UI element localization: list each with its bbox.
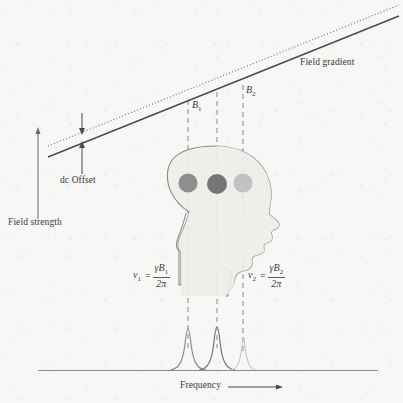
dc-offset-label: dc Offset <box>60 176 96 186</box>
b2-label-subscript: 2 <box>252 90 256 98</box>
voxel-3-dot <box>234 174 253 193</box>
equation-nu1: ν1 = γB1 2π <box>133 262 170 289</box>
nu2-numerator-subscript: 2 <box>280 268 284 276</box>
mri-field-gradient-figure: Field gradient dc Offset Field strength … <box>0 0 403 403</box>
nu1-lhs: ν1 <box>133 269 141 283</box>
nu1-numerator-base: γB <box>155 262 165 273</box>
nu2-subscript: 2 <box>252 275 256 283</box>
nu1-equals-sign: = <box>145 270 151 281</box>
frequency-label: Frequency <box>180 381 221 391</box>
frequency-arrowhead <box>276 385 283 390</box>
field-gradient-label: Field gradient <box>300 58 354 68</box>
voxel-1-dot <box>179 174 198 193</box>
field-strength-arrow <box>36 127 41 219</box>
field-gradient-lines <box>48 5 399 157</box>
nu2-fraction: γB2 2π <box>268 262 286 289</box>
nu1-numerator: γB1 <box>153 262 171 278</box>
nu2-numerator-base: γB <box>270 262 280 273</box>
nu2-numerator: γB2 <box>268 262 286 278</box>
baseline-field-dotted-line <box>48 5 399 146</box>
nu2-equals-sign: = <box>260 270 266 281</box>
field-strength-label: Field strength <box>8 218 62 228</box>
field-strength-arrowhead <box>36 127 41 134</box>
voxel-2-dot <box>207 174 227 194</box>
b2-label: B2 <box>246 85 256 98</box>
b1-label: B1 <box>192 100 202 113</box>
field-gradient-solid-line <box>48 16 399 157</box>
nu1-subscript: 1 <box>137 275 141 283</box>
equation-nu2: ν2 = γB2 2π <box>248 262 285 289</box>
nu1-numerator-subscript: 1 <box>165 268 169 276</box>
nu1-denominator: 2π <box>156 278 166 290</box>
nu2-denominator: 2π <box>271 278 281 290</box>
voxel-dots <box>179 174 253 195</box>
nu2-lhs: ν2 <box>248 269 256 283</box>
nu1-fraction: γB1 2π <box>153 262 171 289</box>
b1-label-subscript: 1 <box>198 105 202 113</box>
peak-nu2-curve <box>199 327 235 370</box>
